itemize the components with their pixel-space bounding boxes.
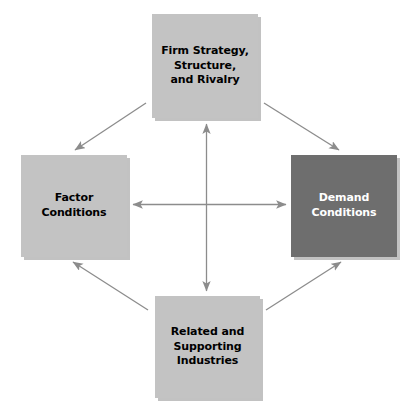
node-factor-conditions-label: Factor Conditions — [37, 191, 110, 220]
node-demand-conditions: Demand Conditions — [291, 155, 397, 257]
node-factor-conditions: Factor Conditions — [21, 155, 127, 257]
connector-diagonal-bottom-left — [73, 262, 148, 310]
node-related-industries-label: Related and Supporting Industries — [167, 325, 249, 369]
node-related-industries: Related and Supporting Industries — [155, 296, 260, 398]
porter-diamond-diagram: Firm Strategy, Structure, and Rivalry Fa… — [0, 0, 413, 414]
node-demand-conditions-label: Demand Conditions — [307, 191, 380, 220]
node-firm-strategy: Firm Strategy, Structure, and Rivalry — [152, 14, 258, 118]
connector-diagonal-bottom-right — [266, 262, 341, 310]
connector-diagonal-top-right — [264, 103, 339, 150]
node-firm-strategy-label: Firm Strategy, Structure, and Rivalry — [157, 44, 253, 88]
connector-diagonal-top-left — [75, 103, 146, 150]
